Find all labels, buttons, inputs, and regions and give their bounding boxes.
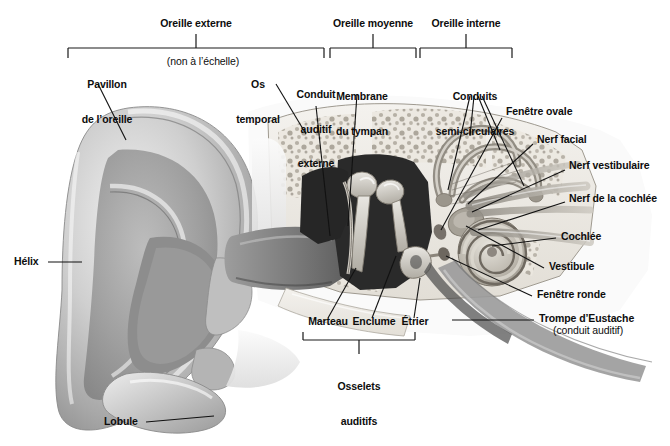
bracket-title-oreille-interne: Oreille interne [406, 18, 526, 30]
label-nerf-de-la-cochlee: Nerf de la cochlée [569, 193, 657, 205]
label-helix: Hélix [14, 256, 39, 268]
label-vestibule: Vestibule [549, 261, 594, 273]
label-conduit-auditif-paren: (conduit auditif) [553, 325, 623, 337]
conduits-line2: semi-circulaires [432, 126, 518, 138]
label-pavillon-de-loreille: Pavillon de l’oreille [62, 56, 152, 148]
osselets-line2: auditifs [319, 416, 399, 428]
label-cochlee: Cochlée [561, 231, 601, 243]
ear-anatomy-figure: Oreille externe Oreille moyenne Oreille … [0, 0, 670, 446]
label-osselets-auditifs: Osselets auditifs [319, 358, 399, 446]
label-trompe-deustache: Trompe d’Eustache [539, 313, 634, 325]
label-nerf-facial: Nerf facial [537, 134, 587, 146]
label-os-temporal: Os temporal [226, 56, 290, 148]
label-membrane-du-tympan: Membrane du tympan [331, 68, 393, 160]
pavillon-line2: de l’oreille [62, 114, 152, 126]
membrane-line2: du tympan [331, 126, 393, 138]
os-temporal-line1: Os [226, 79, 290, 91]
label-nerf-vestibulaire: Nerf vestibulaire [569, 160, 650, 172]
conduits-line1: Conduits [432, 91, 518, 103]
os-temporal-line2: temporal [226, 114, 290, 126]
bracket-title-oreille-externe: Oreille externe [126, 18, 266, 30]
osselets-line1: Osselets [319, 381, 399, 393]
label-fenetre-ronde: Fenêtre ronde [537, 289, 606, 301]
label-lobule: Lobule [104, 416, 138, 428]
label-fenetre-ovale: Fenêtre ovale [506, 106, 572, 118]
pavillon-line1: Pavillon [62, 79, 152, 91]
label-etrier: Étrier [392, 316, 438, 328]
membrane-line1: Membrane [331, 91, 393, 103]
top-bracket-group [68, 34, 512, 58]
